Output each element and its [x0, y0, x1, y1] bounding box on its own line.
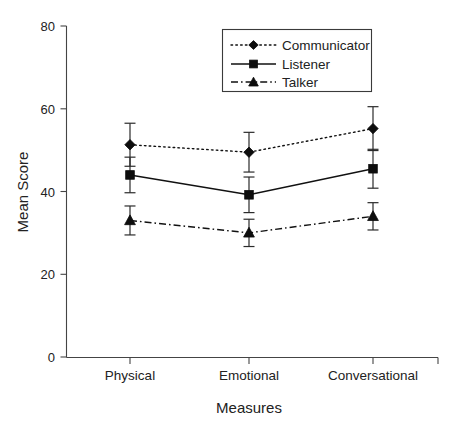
- legend-label-listener: Listener: [282, 57, 331, 72]
- caption-strip: [0, 434, 459, 442]
- x-tick-label-conversational: Conversational: [328, 368, 418, 383]
- legend-label-communicator: Communicator: [282, 38, 370, 53]
- figure-container: 80 60 40 20 0 Mean Score Physical Emotio…: [0, 0, 459, 442]
- series-listener: [125, 149, 379, 212]
- y-tick-label-40: 40: [41, 185, 55, 200]
- series-communicator: [125, 107, 379, 172]
- y-axis-title: Mean Score: [14, 152, 31, 233]
- legend-label-talker: Talker: [282, 75, 319, 90]
- point-talker-2: [368, 211, 379, 221]
- point-communicator-2: [368, 123, 378, 133]
- point-communicator-1: [244, 147, 254, 157]
- x-axis-title: Measures: [216, 399, 282, 416]
- line-chart: 80 60 40 20 0 Mean Score Physical Emotio…: [0, 0, 459, 442]
- y-tick-label-60: 60: [41, 102, 55, 117]
- point-talker-0: [125, 215, 136, 225]
- y-tick-label-80: 80: [41, 19, 55, 34]
- x-tick-label-emotional: Emotional: [219, 368, 279, 383]
- x-axis: Physical Emotional Conversational Measur…: [67, 358, 439, 417]
- y-tick-label-20: 20: [41, 267, 55, 282]
- square-icon: [250, 60, 258, 68]
- point-listener-1: [245, 191, 254, 200]
- point-listener-0: [126, 171, 135, 180]
- legend[interactable]: Communicator Listener Talker: [223, 30, 372, 92]
- point-communicator-0: [125, 140, 135, 150]
- series-talker: [125, 203, 379, 247]
- point-listener-2: [369, 164, 378, 173]
- y-tick-label-0: 0: [48, 350, 55, 365]
- x-tick-label-physical: Physical: [105, 368, 155, 383]
- series-layer: [125, 107, 379, 247]
- y-axis: 80 60 40 20 0 Mean Score: [14, 19, 67, 365]
